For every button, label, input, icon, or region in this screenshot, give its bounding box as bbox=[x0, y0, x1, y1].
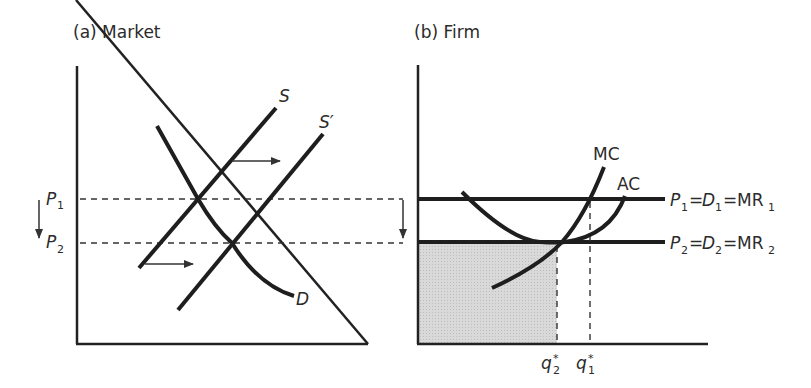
demand-label: D bbox=[296, 289, 309, 309]
firm-panel-title: (b) Firm bbox=[414, 22, 480, 42]
svg-text:2: 2 bbox=[768, 244, 775, 257]
firm-panel: (b) Firm AC MC P 1 = D 1 = MR 1 bbox=[403, 22, 775, 377]
svg-text:=: = bbox=[723, 190, 737, 210]
svg-text:P: P bbox=[670, 190, 681, 210]
svg-text:2: 2 bbox=[681, 244, 688, 257]
svg-text:MR: MR bbox=[737, 190, 764, 210]
svg-text:P: P bbox=[46, 189, 57, 209]
mc-label: MC bbox=[593, 144, 620, 164]
svg-text:P: P bbox=[46, 232, 57, 252]
demand-curve bbox=[157, 126, 294, 296]
economics-diagram: (a) Market P 1 P 2 D S S′ (b bbox=[0, 0, 811, 388]
svg-text:=: = bbox=[723, 233, 737, 253]
svg-text:P: P bbox=[670, 233, 681, 253]
supply-shifted-label: S′ bbox=[319, 112, 334, 132]
svg-text:1: 1 bbox=[768, 201, 775, 214]
p2-d2-mr2-label: P 2 = D 2 = MR 2 bbox=[670, 233, 775, 257]
p2-label: P 2 bbox=[46, 232, 64, 256]
svg-text:1: 1 bbox=[715, 201, 722, 214]
svg-text:2: 2 bbox=[57, 243, 64, 256]
svg-text:1: 1 bbox=[57, 199, 64, 212]
market-panel: (a) Market P 1 P 2 D S S′ bbox=[39, 0, 403, 344]
svg-text:2: 2 bbox=[715, 244, 722, 257]
total-revenue-shaded-area bbox=[418, 243, 557, 344]
svg-text:q: q bbox=[576, 353, 587, 373]
svg-text:1: 1 bbox=[681, 201, 688, 214]
q1-star-label: q * 1 bbox=[576, 352, 595, 377]
market-panel-title: (a) Market bbox=[73, 22, 161, 42]
svg-text:q: q bbox=[541, 353, 552, 373]
svg-text:D: D bbox=[702, 233, 715, 253]
supply-label: S bbox=[279, 86, 290, 106]
svg-text:2: 2 bbox=[553, 364, 560, 377]
q2-star-label: q * 2 bbox=[541, 352, 560, 377]
p1-d1-mr1-label: P 1 = D 1 = MR 1 bbox=[670, 190, 775, 214]
svg-text:1: 1 bbox=[588, 364, 595, 377]
ac-label: AC bbox=[617, 174, 640, 194]
svg-text:MR: MR bbox=[737, 233, 764, 253]
p1-label: P 1 bbox=[46, 189, 64, 212]
svg-text:D: D bbox=[702, 190, 715, 210]
